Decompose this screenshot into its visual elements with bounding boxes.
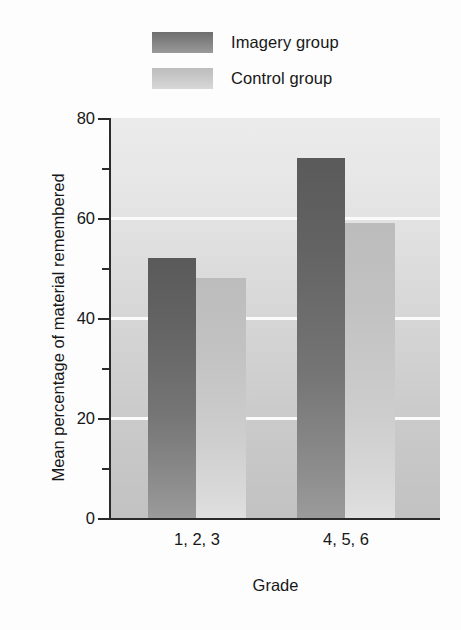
y-tick-30 — [102, 368, 111, 370]
bar-chart-figure: Imagery group Control group Mean percent… — [0, 0, 461, 630]
legend-swatch-imagery-group — [152, 32, 213, 53]
legend-label-control-group: Control group — [231, 69, 332, 88]
chart-legend: Imagery group Control group — [152, 30, 432, 102]
x-axis-line — [109, 518, 440, 520]
y-tick-40 — [98, 318, 111, 320]
legend-swatch-control-group — [152, 68, 213, 89]
gridline-60 — [111, 217, 440, 220]
y-tick-label-40: 40 — [77, 309, 95, 328]
bar-control-grade-4-5-6 — [345, 223, 395, 518]
legend-label-imagery-group: Imagery group — [231, 33, 339, 52]
y-tick-label-20: 20 — [77, 409, 95, 428]
bar-control-grade-1-2-3 — [196, 278, 246, 518]
y-axis-title: Mean percentage of material remembered — [49, 118, 68, 538]
y-tick-label-60: 60 — [77, 209, 95, 228]
y-tick-20 — [98, 418, 111, 420]
legend-item-imagery-group: Imagery group — [152, 30, 432, 54]
bar-imagery-grade-4-5-6 — [297, 158, 345, 518]
y-tick-label-80: 80 — [77, 109, 95, 128]
legend-item-control-group: Control group — [152, 66, 432, 90]
y-tick-50 — [102, 268, 111, 270]
plot-region: 80 60 40 20 0 1, 2, 3 4, 5, 6 Grade — [111, 118, 440, 518]
bar-imagery-grade-1-2-3 — [148, 258, 196, 518]
x-tick-label-grade-4-5-6: 4, 5, 6 — [323, 530, 369, 549]
y-tick-label-0: 0 — [86, 509, 95, 528]
y-tick-80 — [98, 118, 111, 120]
x-tick-label-grade-1-2-3: 1, 2, 3 — [174, 530, 220, 549]
y-tick-0 — [98, 518, 111, 520]
y-tick-60 — [98, 218, 111, 220]
y-tick-70 — [102, 168, 111, 170]
plot-area — [111, 118, 440, 518]
x-axis-title: Grade — [111, 576, 440, 595]
y-tick-10 — [102, 468, 111, 470]
